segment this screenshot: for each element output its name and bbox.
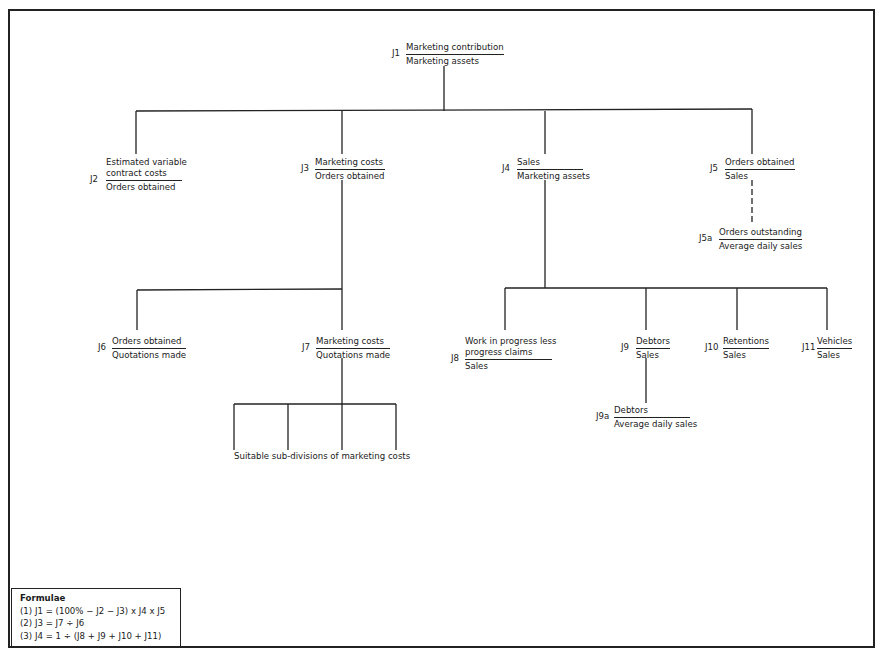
numerator: Orders obtained bbox=[725, 157, 795, 170]
denominator: Quotations made bbox=[112, 349, 186, 361]
node-id: J6 bbox=[98, 342, 106, 353]
formulae-box: Formulae (1) J1 = (100% − J2 − J3) x J4 … bbox=[11, 588, 181, 648]
node-id: J9 bbox=[621, 342, 629, 353]
node-id: J7 bbox=[302, 342, 310, 353]
numerator-line-1: Estimated variable bbox=[106, 157, 182, 168]
denominator: Sales bbox=[817, 349, 852, 361]
connector-lines bbox=[0, 0, 881, 655]
node-id: J2 bbox=[90, 174, 98, 185]
numerator-line-2: contract costs bbox=[106, 168, 182, 181]
denominator: Marketing assets bbox=[517, 170, 583, 182]
formula-2: (2) J3 = J7 ÷ J6 bbox=[20, 617, 180, 630]
node-id: J11 bbox=[802, 342, 815, 353]
numerator: Retentions bbox=[723, 336, 769, 349]
subdivisions-label: Suitable sub-divisions of marketing cost… bbox=[234, 451, 410, 461]
numerator: Sales bbox=[517, 157, 583, 170]
denominator: Orders obtained bbox=[315, 170, 385, 182]
numerator: Orders outstanding bbox=[719, 227, 802, 240]
node-id: J9a bbox=[596, 411, 609, 422]
numerator: Marketing contribution bbox=[406, 42, 504, 55]
numerator: Debtors bbox=[614, 405, 690, 418]
numerator: Marketing costs bbox=[315, 157, 385, 170]
denominator: Average daily sales bbox=[719, 240, 802, 252]
node-id: J4 bbox=[502, 163, 510, 174]
node-id: J5 bbox=[710, 163, 718, 174]
denominator: Sales bbox=[725, 170, 795, 182]
numerator: Vehicles bbox=[817, 336, 852, 349]
numerator: Orders obtained bbox=[112, 336, 186, 349]
numerator: Marketing costs bbox=[316, 336, 390, 349]
denominator: Average daily sales bbox=[614, 418, 690, 430]
node-id: J3 bbox=[301, 163, 309, 174]
numerator: Debtors bbox=[636, 336, 670, 349]
node-id: J8 bbox=[451, 353, 459, 364]
denominator: Sales bbox=[636, 349, 670, 361]
denominator: Sales bbox=[723, 349, 769, 361]
denominator: Sales bbox=[465, 360, 552, 372]
numerator-line-2: progress claims bbox=[465, 347, 552, 360]
node-id: J10 bbox=[705, 342, 718, 353]
node-id: J1 bbox=[392, 48, 400, 59]
denominator: Quotations made bbox=[316, 349, 390, 361]
numerator-line-1: Work in progress less bbox=[465, 336, 552, 347]
formulae-title: Formulae bbox=[20, 592, 180, 605]
node-id: J5a bbox=[699, 233, 712, 244]
formula-3: (3) J4 = 1 ÷ (J8 + J9 + J10 + J11) bbox=[20, 630, 180, 643]
denominator: Orders obtained bbox=[106, 181, 182, 193]
denominator: Marketing assets bbox=[406, 55, 504, 67]
formula-1: (1) J1 = (100% − J2 − J3) x J4 x J5 bbox=[20, 605, 180, 618]
